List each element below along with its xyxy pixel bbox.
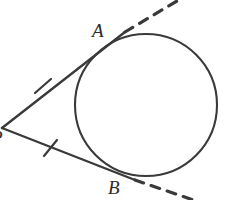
geometry-canvas xyxy=(0,0,234,200)
tangent-ray-extension-a xyxy=(125,0,182,32)
point-label-p: P xyxy=(0,128,3,147)
point-label-b: B xyxy=(108,178,120,197)
tangent-segment-pa xyxy=(2,32,125,128)
tangent-ray-extension-b xyxy=(135,180,199,200)
geometry-figure: A B P xyxy=(0,0,234,200)
point-label-a: A xyxy=(92,21,104,40)
tangent-segment-pb xyxy=(2,128,135,180)
